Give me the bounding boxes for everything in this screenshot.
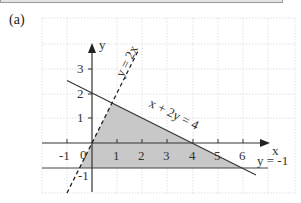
x-axis-arrow-icon — [260, 139, 270, 147]
x-tick-label: 4 — [189, 148, 196, 163]
x-tick-label: 3 — [163, 148, 170, 163]
x-tick-label: 6 — [239, 148, 246, 163]
y-tick-label: 2 — [77, 86, 84, 101]
origin-label: 0 — [80, 147, 87, 162]
y-tick-label: -1 — [78, 168, 89, 183]
y-tick-label: 3 — [77, 61, 84, 76]
x-tick-label: -1 — [59, 148, 70, 163]
x-tick-label: 5 — [214, 148, 221, 163]
y-tick-label: 1 — [77, 110, 84, 125]
y-axis-label: y — [99, 37, 106, 52]
label-y-eq-minus-1: y = -1 — [257, 153, 288, 168]
y-axis-arrow-icon — [88, 43, 96, 53]
x-tick-label: 2 — [138, 148, 145, 163]
x-tick-label: 1 — [113, 148, 120, 163]
inequality-graph: -1 1 2 3 4 5 6 3 2 1 -1 0 x y y = 2x x +… — [0, 0, 301, 203]
